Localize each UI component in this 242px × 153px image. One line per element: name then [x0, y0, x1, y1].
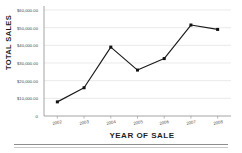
chart-page: TOTAL SALES YEAR OF SALE $60,000.00$50,0… [0, 0, 242, 153]
axis-lines [44, 6, 231, 116]
line-chart-plot [0, 0, 242, 153]
bottom-divider-secondary [14, 147, 228, 148]
gridlines [44, 10, 231, 98]
data-line [57, 25, 217, 102]
data-point-markers [56, 24, 219, 104]
bottom-divider [14, 144, 228, 145]
